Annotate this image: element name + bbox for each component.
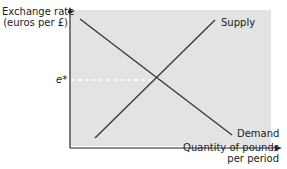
x-axis-label-line2: per period <box>183 153 279 164</box>
y-axis-label-line2: (euros per £) <box>2 17 68 28</box>
x-axis-label: Quantity of pounds per period <box>183 142 279 164</box>
y-axis-label-line1: Exchange rate <box>2 6 68 17</box>
x-axis-label-line1: Quantity of pounds <box>183 142 279 153</box>
supply-curve <box>95 20 215 138</box>
demand-curve <box>80 19 232 135</box>
equilibrium-label: e* <box>56 74 67 85</box>
supply-label: Supply <box>221 17 255 28</box>
demand-label: Demand <box>237 128 279 139</box>
y-axis-label: Exchange rate (euros per £) <box>2 6 68 28</box>
